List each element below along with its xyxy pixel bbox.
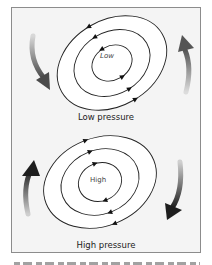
high-right-arrow-down [165, 162, 182, 220]
high-left-arrow-up [22, 160, 40, 214]
cropped-caption [14, 259, 200, 265]
low-pressure-title: Low pressure [11, 112, 201, 122]
low-right-arrow-up [178, 35, 194, 92]
pressure-diagram [0, 0, 212, 265]
low-left-arrow-down [32, 36, 50, 90]
high-center-label: High [90, 176, 120, 184]
low-center-label: Low [100, 52, 130, 60]
high-pressure-title: High pressure [11, 240, 201, 250]
